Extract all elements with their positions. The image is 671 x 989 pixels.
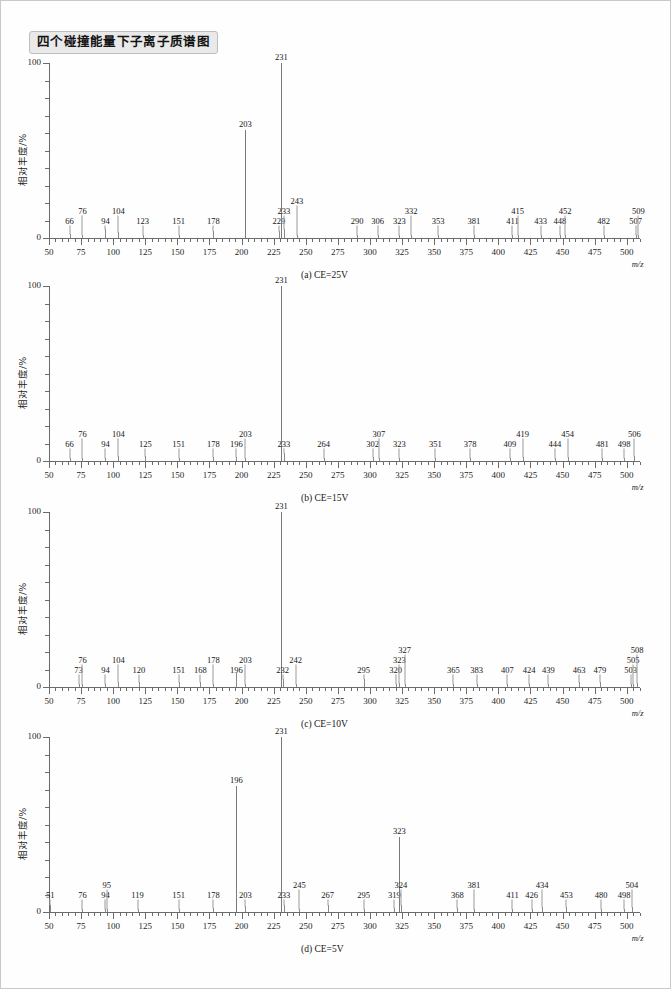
x-tick-minor: [550, 239, 551, 242]
peak-label: 353: [423, 216, 453, 226]
x-tick-major: [242, 239, 243, 245]
x-tick-major: [370, 688, 371, 694]
x-tick-minor: [75, 239, 76, 242]
x-tick-major: [209, 913, 210, 919]
peak-label: 439: [533, 665, 563, 675]
x-tick-minor: [640, 688, 641, 691]
x-tick-minor: [473, 688, 474, 691]
x-tick-minor: [383, 688, 384, 691]
peak-label-leader: [522, 439, 523, 458]
peak-label: 508: [622, 645, 652, 655]
x-tick-minor: [203, 462, 204, 465]
peak-label-leader: [399, 226, 400, 236]
peak-label-leader: [603, 226, 604, 236]
x-tick-minor: [428, 462, 429, 465]
x-tick-minor: [171, 688, 172, 691]
x-tick-minor: [235, 462, 236, 465]
peak-label-leader: [630, 675, 631, 685]
peak-bar: [245, 458, 246, 462]
x-tick-minor: [376, 688, 377, 691]
x-tick-minor: [588, 913, 589, 916]
x-tick-minor: [428, 688, 429, 691]
x-tick-minor: [216, 462, 217, 465]
peak-label-leader: [473, 226, 474, 236]
figure-page: 四个碰撞能量下子离子质谱图 1000相对丰度/%5075100125150175…: [0, 0, 671, 989]
peak-bar: [145, 456, 146, 461]
peak-label: 319: [379, 890, 409, 900]
peak-bar: [633, 684, 634, 688]
x-tick-minor: [216, 239, 217, 242]
x-tick-minor: [126, 239, 127, 242]
peak-label-leader: [178, 900, 179, 910]
x-tick-minor: [383, 462, 384, 465]
x-tick-major: [81, 913, 82, 919]
x-tick-minor: [319, 462, 320, 465]
x-tick-major: [530, 688, 531, 694]
peak-bar: [394, 908, 395, 912]
x-tick-minor: [607, 462, 608, 465]
x-tick-minor: [299, 913, 300, 916]
x-tick-minor: [505, 462, 506, 465]
peak-label-leader: [637, 655, 638, 684]
x-tick-minor: [94, 462, 95, 465]
y-tick: [45, 582, 49, 583]
peak-bar: [401, 905, 402, 912]
x-axis-tick-label: 100: [98, 247, 128, 257]
x-tick-minor: [107, 688, 108, 691]
x-axis-tick-label: 200: [227, 921, 257, 931]
x-tick-major: [177, 688, 178, 694]
x-tick-minor: [376, 462, 377, 465]
peak-label: 323: [384, 655, 414, 665]
peak-label-leader: [138, 675, 139, 683]
x-tick-minor: [614, 462, 615, 465]
x-axis-tick-label: 100: [98, 696, 128, 706]
peak-label-leader: [323, 449, 324, 459]
x-tick-minor: [254, 462, 255, 465]
x-tick-minor: [389, 913, 390, 916]
x-tick-minor: [197, 688, 198, 691]
x-axis-tick-label: 150: [162, 470, 192, 480]
x-tick-minor: [55, 913, 56, 916]
x-tick-minor: [139, 913, 140, 916]
x-tick-minor: [460, 688, 461, 691]
x-tick-minor: [126, 688, 127, 691]
x-tick-minor: [68, 462, 69, 465]
x-tick-minor: [582, 688, 583, 691]
x-tick-minor: [601, 239, 602, 242]
x-tick-minor: [299, 239, 300, 242]
x-tick-major: [563, 239, 564, 245]
peak-label: 368: [442, 890, 472, 900]
x-tick-minor: [575, 688, 576, 691]
x-tick-minor: [197, 913, 198, 916]
x-tick-major: [306, 913, 307, 919]
x-tick-minor: [325, 239, 326, 242]
x-axis-title-a: m/z: [632, 259, 644, 269]
peak-bar: [284, 453, 285, 461]
peak-bar: [632, 907, 633, 912]
x-tick-minor: [357, 239, 358, 242]
x-axis-tick-label: 225: [259, 696, 289, 706]
x-tick-major: [113, 239, 114, 245]
peak-label-leader: [399, 449, 400, 459]
x-axis-tick-label: 75: [66, 921, 96, 931]
peak-label: 123: [128, 216, 158, 226]
peak-label: 203: [230, 119, 260, 129]
peak-label-leader: [282, 675, 283, 680]
x-tick-minor: [447, 462, 448, 465]
x-tick-minor: [569, 913, 570, 916]
x-tick-major: [113, 462, 114, 468]
x-tick-minor: [222, 913, 223, 916]
x-tick-major: [49, 688, 50, 694]
x-tick-minor: [132, 462, 133, 465]
x-axis-tick-label: 275: [323, 696, 353, 706]
x-tick-major: [49, 913, 50, 919]
x-tick-minor: [607, 913, 608, 916]
y-tick: [45, 116, 49, 117]
x-tick-major: [498, 462, 499, 468]
x-tick-major: [274, 913, 275, 919]
plot-area-c: 1000相对丰度/%507510012515017520022525027530…: [49, 512, 646, 687]
x-tick-minor: [376, 913, 377, 916]
x-tick-minor: [441, 462, 442, 465]
x-tick-major: [145, 688, 146, 694]
peak-label: 119: [123, 890, 153, 900]
